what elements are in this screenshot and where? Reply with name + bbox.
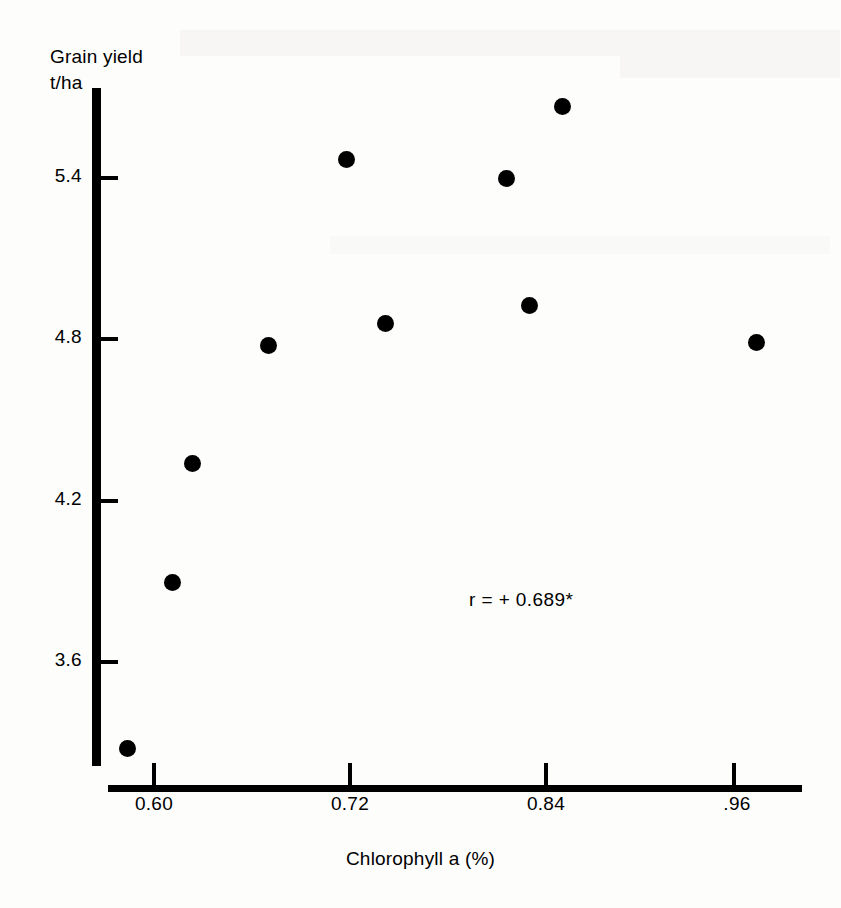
y-axis-tick-label-wrap: 4.8 bbox=[20, 326, 82, 348]
y-axis-tick bbox=[101, 337, 118, 341]
data-point bbox=[338, 151, 355, 168]
x-axis-title: Chlorophyll a (%) bbox=[0, 848, 841, 870]
y-axis-tick-label-wrap: 4.2 bbox=[20, 488, 82, 510]
y-axis-tick bbox=[101, 660, 118, 664]
y-axis-tick-label: 4.2 bbox=[24, 488, 82, 510]
y-axis-tick-label-wrap: 3.6 bbox=[20, 649, 82, 671]
y-axis-tick bbox=[101, 499, 118, 503]
y-axis-line bbox=[92, 88, 101, 766]
data-point bbox=[377, 315, 394, 332]
x-axis-tick bbox=[544, 763, 548, 786]
data-point bbox=[119, 740, 136, 757]
data-point bbox=[554, 98, 571, 115]
y-axis-tick-label: 4.8 bbox=[24, 326, 82, 348]
x-axis-tick-label: .96 bbox=[697, 793, 777, 815]
x-axis-tick-label: 0.60 bbox=[114, 793, 194, 815]
y-axis-tick-label-wrap: 5.4 bbox=[20, 165, 82, 187]
scan-artifact-band bbox=[330, 236, 830, 254]
x-axis-tick bbox=[152, 763, 156, 786]
x-axis-line bbox=[108, 785, 802, 792]
data-point bbox=[164, 574, 181, 591]
data-point bbox=[521, 297, 538, 314]
scan-artifact-band bbox=[620, 56, 840, 78]
data-point bbox=[260, 337, 277, 354]
x-axis-tick bbox=[732, 763, 736, 786]
correlation-annotation: r = + 0.689* bbox=[469, 589, 573, 611]
data-point bbox=[498, 170, 515, 187]
x-axis-tick bbox=[348, 763, 352, 786]
scatter-plot-figure: Grain yield t/ha 5.4 4.8 4.2 3.6 0.60 0.… bbox=[0, 0, 841, 908]
data-point bbox=[748, 334, 765, 351]
x-axis-tick-label: 0.72 bbox=[310, 793, 390, 815]
data-point bbox=[184, 455, 201, 472]
x-axis-tick-label: 0.84 bbox=[506, 793, 586, 815]
y-axis-tick-label: 3.6 bbox=[24, 649, 82, 671]
scan-artifact-band bbox=[180, 30, 840, 56]
y-axis-tick-label: 5.4 bbox=[24, 165, 82, 187]
y-axis-tick bbox=[101, 176, 118, 180]
